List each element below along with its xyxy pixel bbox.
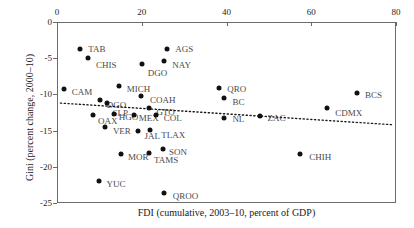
data-point — [102, 124, 107, 129]
y-tick-mark — [53, 94, 57, 95]
y-tick-label: -20 — [40, 162, 52, 172]
x-tick-mark — [396, 22, 397, 26]
data-point-label: COL — [164, 113, 182, 123]
scatter-chart-figure: 020406080 0-5-10-15-20-25 TABCHISAGSNAYD… — [0, 0, 414, 228]
y-tick-label: -15 — [40, 126, 52, 136]
x-tick-label: 80 — [392, 7, 401, 17]
data-point-label: NAY — [172, 60, 191, 70]
data-point — [105, 101, 110, 106]
y-axis-title: Gini (percent change, 2000–10) — [24, 33, 35, 203]
data-point — [85, 56, 90, 61]
data-point-label: TLAX — [161, 130, 185, 140]
data-point-label: QROO — [173, 191, 199, 201]
data-point — [147, 106, 152, 111]
data-point-label: NL — [232, 114, 244, 124]
y-tick-mark — [53, 58, 57, 59]
data-point — [61, 87, 66, 92]
data-point-label: CHIS — [96, 60, 117, 70]
y-tick-label: 0 — [48, 17, 53, 27]
y-tick-mark — [53, 167, 57, 168]
data-point — [162, 59, 167, 64]
x-tick-label: 0 — [55, 7, 60, 17]
data-point — [165, 46, 170, 51]
x-tick-label: 60 — [307, 7, 316, 17]
x-tick-label: 20 — [137, 7, 146, 17]
data-point — [131, 112, 136, 117]
data-point — [116, 83, 121, 88]
x-tick-label: 40 — [222, 7, 231, 17]
data-point-label: SON — [169, 147, 187, 157]
data-point-label: JAL — [145, 131, 161, 141]
y-tick-label: -10 — [40, 89, 52, 99]
data-point — [91, 112, 96, 117]
data-point-label: ZAC — [267, 113, 285, 123]
x-axis-title: FDI (cumulative, 2003–10, percent of GDP… — [57, 207, 396, 218]
data-point — [139, 61, 144, 66]
data-point-label: QRO — [227, 84, 246, 94]
data-point — [78, 46, 83, 51]
data-point-label: CHIH — [309, 152, 331, 162]
y-tick-mark — [53, 22, 57, 23]
y-tick-label: -25 — [40, 198, 52, 208]
data-point-label: TAB — [88, 44, 105, 54]
data-point — [161, 190, 166, 195]
data-point — [138, 93, 143, 98]
data-point — [97, 98, 102, 103]
y-tick-mark — [53, 203, 57, 204]
x-tick-mark — [227, 22, 228, 26]
data-point — [118, 151, 123, 156]
x-tick-mark — [57, 22, 58, 26]
data-point — [135, 128, 140, 133]
data-point — [298, 152, 303, 157]
data-point — [217, 85, 222, 90]
data-point-label: CDMX — [335, 108, 362, 118]
data-point-label: MICH — [127, 84, 151, 94]
data-point — [146, 151, 151, 156]
data-point-label: VER — [113, 126, 131, 136]
y-tick-mark — [53, 131, 57, 132]
data-point — [96, 179, 101, 184]
data-point — [325, 106, 330, 111]
data-point-label: BC — [233, 97, 245, 107]
data-point-label: AGS — [175, 44, 193, 54]
data-point — [355, 90, 360, 95]
data-point-label: COAH — [150, 95, 176, 105]
data-point-label: MOR — [128, 152, 149, 162]
data-point — [258, 114, 263, 119]
data-point-label: CAM — [72, 87, 93, 97]
data-point-label: OAX — [98, 116, 118, 126]
data-point — [148, 127, 153, 132]
data-point — [222, 115, 227, 120]
y-tick-label: -5 — [45, 53, 53, 63]
data-point-label: YUC — [107, 179, 126, 189]
x-tick-mark — [142, 22, 143, 26]
data-point — [221, 96, 226, 101]
data-point — [153, 113, 158, 118]
data-point-label: BCS — [365, 90, 382, 100]
data-point — [160, 146, 165, 151]
x-tick-mark — [311, 22, 312, 26]
data-point-label: DGO — [148, 68, 168, 78]
